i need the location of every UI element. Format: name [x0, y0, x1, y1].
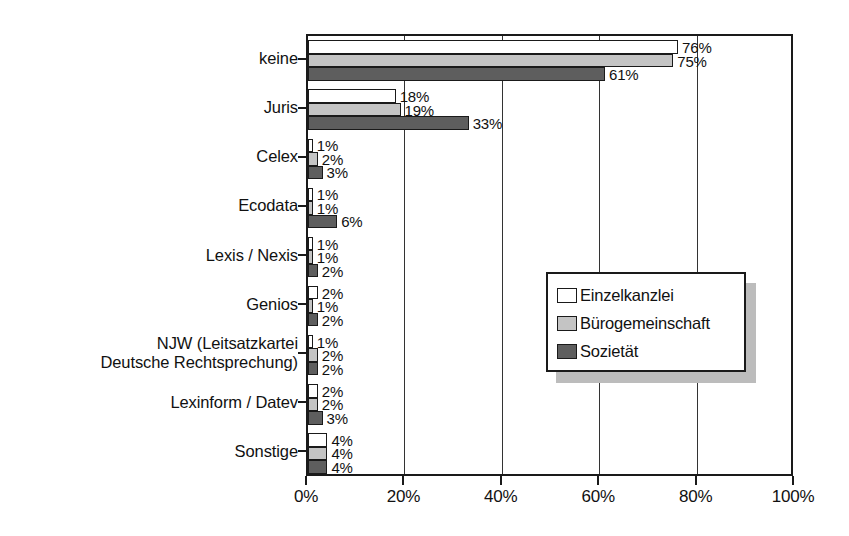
y-axis-labels: keineJurisCelexEcodataLexis / NexisGenio…	[0, 0, 298, 536]
bar-group: 18%19%33%	[308, 89, 791, 130]
bar	[308, 116, 469, 130]
legend-swatch-buerogemeinschaft	[557, 316, 577, 331]
bar-value-label: 4%	[331, 460, 352, 475]
y-axis-tick	[298, 156, 307, 158]
x-axis-tick-label: 80%	[679, 487, 712, 507]
legend-label: Bürogemeinschaft	[580, 314, 710, 333]
y-axis-tick	[298, 254, 307, 256]
bar	[308, 447, 327, 461]
bar-value-label: 1%	[317, 201, 338, 216]
bar	[308, 348, 318, 362]
bar-group: 4%4%4%	[308, 433, 791, 474]
y-axis-category-label: Genios	[246, 295, 298, 314]
legend-swatch-einzelkanzlei	[557, 288, 577, 303]
bar	[308, 433, 327, 447]
bar	[308, 299, 313, 313]
y-axis-tick	[298, 352, 307, 354]
bar	[308, 250, 313, 264]
bar-value-label: 3%	[327, 165, 348, 180]
x-axis-tick-label: 20%	[387, 487, 420, 507]
bar-value-label: 2%	[322, 362, 343, 377]
y-axis-tick	[298, 58, 307, 60]
legend-swatch-sozietaet	[557, 344, 577, 359]
bar-group: 2%2%3%	[308, 384, 791, 425]
y-axis-tick	[298, 205, 307, 207]
bar	[308, 201, 313, 215]
y-axis-tick	[298, 303, 307, 305]
x-axis-tick	[305, 476, 307, 485]
x-axis-tick	[500, 476, 502, 485]
bar-value-label: 61%	[609, 67, 638, 82]
legend-item[interactable]: Bürogemeinschaft	[557, 309, 744, 337]
bar	[308, 166, 323, 180]
y-axis-category-label: keine	[259, 49, 298, 68]
x-axis-tick	[792, 476, 794, 485]
bar	[308, 89, 396, 103]
y-axis-category-label: Lexinform / Datev	[170, 393, 298, 412]
bar	[308, 411, 323, 425]
legend-item[interactable]: Einzelkanzlei	[557, 281, 744, 309]
y-axis-label-line: Juris	[264, 98, 298, 117]
y-axis-category-label: Sonstige	[235, 442, 298, 461]
bar-value-label: 75%	[677, 54, 706, 69]
bar-value-label: 2%	[322, 264, 343, 279]
y-axis-label-line: Ecodata	[238, 196, 298, 215]
bar-group: 1%2%3%	[308, 139, 791, 180]
bar	[308, 40, 678, 54]
bar	[308, 384, 318, 398]
y-axis-label-line: Sonstige	[235, 442, 298, 461]
y-axis-category-label: NJW (LeitsatzkarteiDeutsche Rechtsprechu…	[100, 334, 298, 372]
x-axis-tick-label: 40%	[484, 487, 517, 507]
y-axis-category-label: Celex	[256, 147, 298, 166]
y-axis-tick	[298, 401, 307, 403]
bar-value-label: 3%	[327, 411, 348, 426]
legend-item[interactable]: Sozietät	[557, 337, 744, 365]
bar-value-label: 33%	[473, 116, 502, 131]
y-axis-category-label: Ecodata	[238, 196, 298, 215]
bar	[308, 215, 337, 229]
y-axis-label-line: Genios	[246, 295, 298, 314]
bar-group: 1%1%6%	[308, 188, 791, 229]
x-axis-tick	[597, 476, 599, 485]
bar	[308, 103, 401, 117]
bar-value-label: 19%	[405, 103, 434, 118]
bar	[308, 264, 318, 278]
x-axis-tick	[402, 476, 404, 485]
bar-group: 76%75%61%	[308, 40, 791, 81]
y-axis-tick	[298, 450, 307, 452]
bar	[308, 362, 318, 376]
chart-container: keineJurisCelexEcodataLexis / NexisGenio…	[0, 0, 849, 536]
y-axis-label-line: Celex	[256, 147, 298, 166]
legend-label: Einzelkanzlei	[580, 286, 674, 305]
bar	[308, 152, 318, 166]
legend-label: Sozietät	[580, 342, 638, 361]
bar-value-label: 2%	[322, 313, 343, 328]
y-axis-label-line: NJW (Leitsatzkartei	[100, 334, 298, 353]
y-axis-label-line: Lexinform / Datev	[170, 393, 298, 412]
y-axis-label-line: keine	[259, 49, 298, 68]
plot-area: 76%75%61%18%19%33%1%2%3%1%1%6%1%1%2%2%1%…	[306, 34, 793, 476]
y-axis-label-line: Lexis / Nexis	[206, 246, 298, 265]
x-axis-tick-label: 60%	[581, 487, 614, 507]
y-axis-category-label: Lexis / Nexis	[206, 246, 298, 265]
bar-value-label: 6%	[341, 214, 362, 229]
x-axis-tick-label: 100%	[772, 487, 815, 507]
y-axis-label-line: Deutsche Rechtsprechung)	[100, 353, 298, 372]
y-axis-tick	[298, 107, 307, 109]
x-axis-tick-label: 0%	[294, 487, 318, 507]
bar	[308, 460, 327, 474]
bar	[308, 237, 313, 251]
x-axis-tick	[695, 476, 697, 485]
bar	[308, 313, 318, 327]
bar	[308, 335, 313, 349]
bar	[308, 139, 313, 153]
bar	[308, 398, 318, 412]
legend: Einzelkanzlei Bürogemeinschaft Sozietät	[546, 272, 746, 372]
bar	[308, 188, 313, 202]
y-axis-category-label: Juris	[264, 98, 298, 117]
bar	[308, 67, 605, 81]
